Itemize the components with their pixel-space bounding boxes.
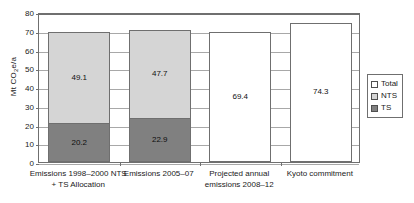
- legend-label: NTS: [381, 92, 397, 100]
- bar-value-label: 47.7: [152, 70, 168, 78]
- bar-segment-total[interactable]: 74.3: [290, 23, 352, 162]
- y-axis-tick-mark: [36, 164, 39, 165]
- bar-stack[interactable]: 49.120.2: [48, 32, 110, 162]
- bar-stack[interactable]: 47.722.9: [129, 30, 191, 162]
- y-axis-tick-label: 40: [25, 85, 34, 93]
- bar-slot: 49.120.2: [39, 14, 120, 162]
- gridline: [39, 164, 359, 165]
- legend-item-total[interactable]: Total: [371, 78, 398, 90]
- legend-swatch-icon: [371, 93, 378, 100]
- bar-segment-ts[interactable]: 20.2: [48, 124, 110, 162]
- x-axis-tick-mark: [120, 162, 121, 166]
- y-axis-tick-label: 10: [25, 141, 34, 149]
- y-axis-tick-label: 60: [25, 48, 34, 56]
- plot-area: 01020304050607080 49.120.247.722.969.474…: [38, 13, 360, 163]
- bar-value-label: 22.9: [152, 136, 168, 144]
- bar-slot: 47.722.9: [120, 14, 201, 162]
- chart-legend: TotalNTSTS: [367, 74, 403, 118]
- y-axis-title-suffix: e/a: [9, 57, 18, 69]
- bar-slot: 74.3: [281, 14, 362, 162]
- chart-container: Mt CO2e/a 01020304050607080 49.120.247.7…: [0, 0, 414, 203]
- x-axis-tick-mark: [281, 162, 282, 166]
- legend-swatch-icon: [371, 81, 378, 88]
- y-axis-title-subscript: 2: [12, 69, 18, 73]
- legend-swatch-icon: [371, 105, 378, 112]
- y-axis-title-prefix: Mt CO: [9, 72, 18, 96]
- bar-segment-nts[interactable]: 47.7: [129, 30, 191, 119]
- bar-stack[interactable]: 74.3: [290, 23, 352, 162]
- legend-label: TS: [381, 104, 391, 112]
- y-axis-tick-label: 0: [30, 160, 34, 168]
- x-axis-category-label: Kyoto commitment: [270, 168, 371, 179]
- y-axis-tick-label: 50: [25, 66, 34, 74]
- bar-slot: 69.4: [200, 14, 281, 162]
- x-axis-labels: Emissions 1998–2000 NTS + TS AllocationE…: [38, 168, 360, 200]
- bar-segment-ts[interactable]: 22.9: [129, 119, 191, 162]
- x-axis-tick-mark: [200, 162, 201, 166]
- bars-group: 49.120.247.722.969.474.3: [39, 14, 359, 162]
- y-axis-tick-label: 20: [25, 123, 34, 131]
- bar-value-label: 49.1: [71, 74, 87, 82]
- bar-stack[interactable]: 69.4: [209, 32, 271, 162]
- bar-segment-nts[interactable]: 49.1: [48, 32, 110, 124]
- bar-value-label: 20.2: [71, 139, 87, 147]
- y-axis-tick-label: 30: [25, 104, 34, 112]
- bar-value-label: 74.3: [313, 88, 329, 96]
- y-axis-tick-label: 80: [25, 10, 34, 18]
- bar-segment-total[interactable]: 69.4: [209, 32, 271, 162]
- bar-value-label: 69.4: [232, 93, 248, 101]
- y-axis-tick-label: 70: [25, 29, 34, 37]
- legend-item-ts[interactable]: TS: [371, 102, 398, 114]
- legend-label: Total: [381, 80, 398, 88]
- y-axis-title: Mt CO2e/a: [9, 42, 18, 112]
- legend-item-nts[interactable]: NTS: [371, 90, 398, 102]
